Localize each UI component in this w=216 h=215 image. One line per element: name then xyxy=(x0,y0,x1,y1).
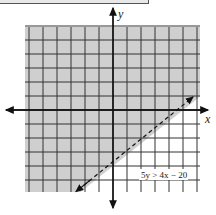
y-axis-label: y xyxy=(117,7,124,21)
inequality-label: 5y > 4x − 20 xyxy=(141,170,188,180)
inequality-graph: y x 5y > 4x − 20 xyxy=(0,0,216,215)
x-axis-label: x xyxy=(204,112,211,126)
